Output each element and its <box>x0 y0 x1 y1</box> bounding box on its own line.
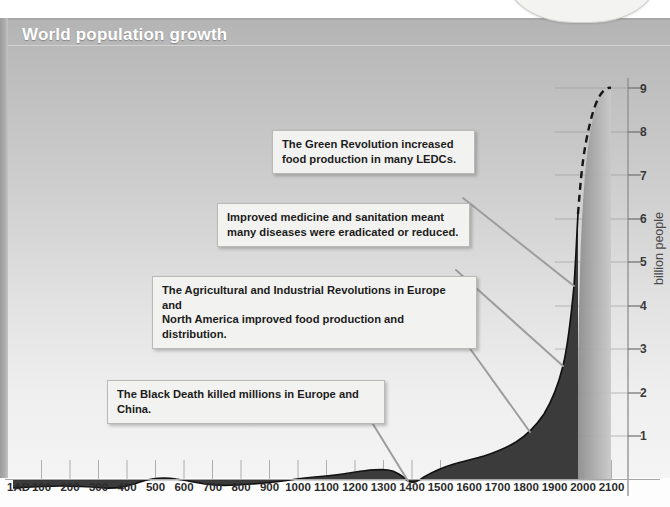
x-tick-label: 800 <box>231 481 250 493</box>
y-tick-label: 4 <box>640 299 647 313</box>
x-tick-label: 1900 <box>542 481 568 493</box>
x-tick-label: 1500 <box>428 481 454 493</box>
x-tick-label: 2000 <box>570 481 596 493</box>
y-tick-label: 3 <box>640 342 647 356</box>
y-tick-label: 6 <box>640 212 647 226</box>
x-tick-label: 1100 <box>314 481 339 493</box>
population-area-fill <box>13 214 578 488</box>
x-axis-labels: 1AD1002003004005006007008009001000110012… <box>0 481 670 501</box>
y-tick-label: 1 <box>640 429 647 443</box>
x-tick-label: 700 <box>203 481 222 493</box>
y-tick-label: 9 <box>640 82 647 96</box>
x-tick-label: 1400 <box>399 481 425 493</box>
x-tick-label: 400 <box>117 481 136 493</box>
callout-medicine-sanitation: Improved medicine and sanitation meant m… <box>217 203 470 247</box>
chart-figure: …you think about it! World population gr… <box>0 0 670 507</box>
x-tick-label: 600 <box>174 481 193 493</box>
x-tick-label: 2100 <box>599 481 625 493</box>
y-tick-label: 5 <box>640 255 647 269</box>
x-tick-label: 1300 <box>371 481 397 493</box>
x-tick-label: 1200 <box>342 481 368 493</box>
x-tick-label: 1000 <box>285 481 311 493</box>
x-tick-label: 900 <box>260 481 279 493</box>
y-axis-title: billion people <box>652 212 666 285</box>
callout-agricultural-industrial: The Agricultural and Industrial Revoluti… <box>152 276 477 349</box>
x-tick-label: 1700 <box>485 481 511 493</box>
leader-green-revolution <box>463 198 574 286</box>
x-tick-label: 1600 <box>456 481 482 493</box>
callout-green-revolution: The Green Revolution increased food prod… <box>272 130 475 174</box>
callout-black-death: The Black Death killed millions in Europ… <box>107 380 385 424</box>
x-tick-label: 500 <box>146 481 165 493</box>
x-tick-label: 100 <box>32 481 51 493</box>
y-tick-label: 8 <box>640 125 647 139</box>
y-tick-label: 7 <box>640 169 647 183</box>
x-tick-label: 1800 <box>513 481 539 493</box>
population-curve-solid <box>13 214 578 488</box>
leader-agricultural-industrial <box>466 343 530 432</box>
population-growth-plot <box>0 18 670 507</box>
projection-area <box>578 88 611 480</box>
x-tick-label: 1AD <box>7 481 30 493</box>
x-tick-label: 300 <box>89 481 108 493</box>
y-tick-label: 2 <box>640 386 647 400</box>
x-tick-label: 200 <box>60 481 79 493</box>
